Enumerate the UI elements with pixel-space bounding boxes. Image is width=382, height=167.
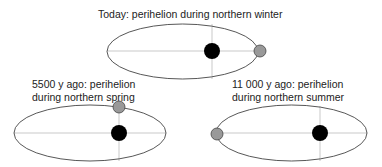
earth-icon (113, 101, 125, 113)
orbit-today (107, 24, 266, 79)
sun-icon (312, 125, 328, 141)
orbit-5500 (14, 101, 166, 161)
sun-icon (111, 125, 127, 141)
earth-icon (211, 128, 223, 140)
orbit-11000 (211, 105, 367, 161)
earth-icon (254, 45, 266, 57)
orbit-diagram (0, 0, 382, 167)
sun-icon (204, 43, 220, 59)
